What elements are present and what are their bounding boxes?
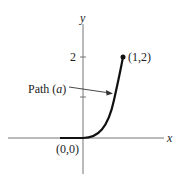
y-tick-label-2: 2	[70, 50, 76, 64]
diagram-canvas: y x 2 (1,2) (0,0) Path (a)	[0, 0, 182, 185]
y-axis-label: y	[79, 11, 86, 25]
endpoint-dot	[121, 55, 126, 60]
path-label: Path (a)	[28, 82, 66, 96]
x-axis-label: x	[166, 131, 173, 145]
point-label-end: (1,2)	[128, 50, 151, 64]
path-label-prefix: Path (	[28, 82, 56, 96]
arrowhead-icon	[106, 90, 113, 96]
path-label-arrow	[69, 87, 110, 93]
path-label-suffix: )	[62, 82, 66, 96]
point-label-origin: (0,0)	[56, 142, 79, 156]
path-a-curve	[60, 57, 123, 138]
